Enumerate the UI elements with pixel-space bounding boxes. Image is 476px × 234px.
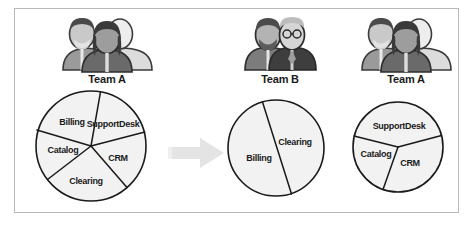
- avatar-group-two: [242, 14, 318, 72]
- group-before-team-a: Team A: [52, 14, 162, 85]
- team-label-before-a: Team A: [52, 73, 162, 85]
- diagram-canvas: Team A: [0, 0, 476, 234]
- pie-svg: [33, 88, 149, 204]
- transformation-arrow: [168, 136, 226, 170]
- group-after-team-a: Team A: [351, 14, 461, 85]
- pie-chart-before-team-a: SupportDesk CRM Clearing Catalog Billing: [33, 88, 149, 204]
- group-after-team-b: Team B: [242, 14, 318, 85]
- avatar-group-three: [52, 14, 162, 72]
- team-label-after-b: Team B: [242, 73, 318, 85]
- avatar-group-three: [351, 14, 461, 72]
- pie-svg: [351, 100, 445, 194]
- pie-chart-after-team-b: Clearing Billing: [226, 98, 326, 198]
- pie-chart-after-team-a: SupportDesk CRM Catalog: [351, 100, 445, 194]
- team-label-after-a: Team A: [351, 73, 461, 85]
- pie-svg: [226, 98, 326, 198]
